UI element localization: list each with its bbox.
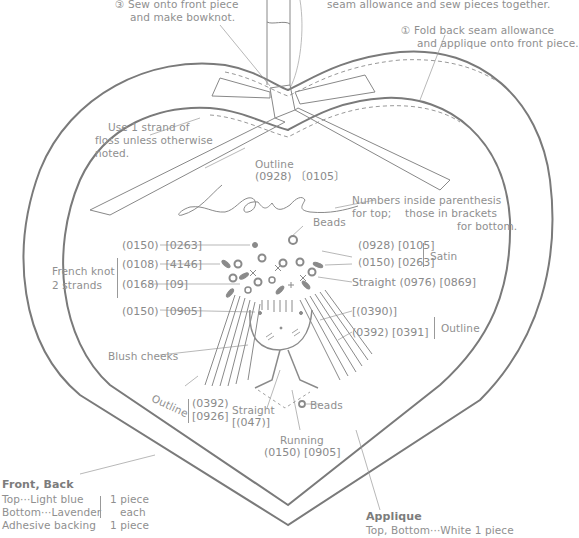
outline-brace: [434, 317, 435, 339]
blush-cheeks-label: Blush cheeks: [108, 350, 178, 362]
satin-brace: [423, 243, 424, 267]
outline-bottom-brace: [188, 399, 189, 423]
applique-desc: Top, Bottom···White 1 piece: [366, 524, 514, 536]
front-back-row-2: Bottom···Lavender: [2, 506, 101, 518]
french-knot-label-1: French knot: [52, 265, 115, 277]
french-knot-label-2: 2 strands: [52, 279, 102, 291]
applique-title: Applique: [366, 511, 422, 523]
running-codes: (0150) [0905]: [264, 447, 341, 459]
front-back-qty-2: each: [120, 506, 146, 518]
love-codes: (0928) 〔0105〕: [255, 171, 345, 183]
step1-line1: ① Fold back seam allowance: [401, 24, 554, 36]
left-code-row-1: (0150) [0263]: [122, 240, 202, 252]
bottom-outline-code-1: (0392): [192, 398, 229, 410]
love-script: [179, 185, 358, 215]
step1-line2: and applique onto front piece.: [417, 37, 579, 49]
legend-line2b: those in brackets: [405, 207, 497, 219]
legend-line3: for bottom.: [457, 220, 517, 232]
ribbon-loop: [267, 0, 290, 85]
legend-line1: Numbers inside parenthesis: [352, 194, 501, 206]
strand-note-2: floss unless otherwise: [95, 134, 213, 146]
beads-bottom-label: Beads: [310, 399, 343, 411]
front-back-row-3: Adhesive backing: [2, 519, 96, 531]
front-back-qty-3: 1 piece: [110, 519, 149, 531]
bottom-outline-code-2: [0926]: [192, 411, 229, 423]
french-knot-brace: [117, 258, 118, 298]
outline-code-2: (0392) [0391]: [352, 327, 429, 339]
satin-label: Satin: [430, 250, 457, 262]
front-back-row-1: Top···Light blue: [2, 493, 84, 505]
straight-code: Straight (0976) [0869]: [352, 277, 476, 289]
outline-label: Outline: [441, 322, 480, 334]
front-back-qty-1: 1 piece: [110, 493, 149, 505]
step2-text: seam allowance and sew pieces together.: [327, 0, 550, 10]
strand-note-1: Use 1 strand of: [108, 121, 190, 133]
front-back-brace: [100, 496, 101, 518]
straight-bottom-code: [(047)]: [232, 417, 270, 429]
front-back-title: Front, Back: [2, 479, 74, 491]
running-label: Running: [280, 434, 324, 446]
beads-top-label: Beads: [313, 216, 346, 228]
legend-line2a: for top;: [352, 207, 391, 219]
left-code-row-4: (0150) [0905]: [122, 306, 202, 318]
girl-face-hair: [205, 290, 372, 408]
left-code-row-3: (0168) [09]: [122, 279, 188, 291]
step3-line2: and make bowknot.: [130, 11, 235, 23]
straight-label: Straight: [232, 404, 275, 416]
outline-code-1: [(0390)]: [352, 306, 397, 318]
strand-note-3: noted.: [95, 147, 129, 159]
step3-line1: ③ Sew onto front piece: [115, 0, 239, 10]
left-code-row-2: (0108) [4146]: [122, 259, 202, 271]
love-stitch-label: Outline: [255, 158, 294, 170]
